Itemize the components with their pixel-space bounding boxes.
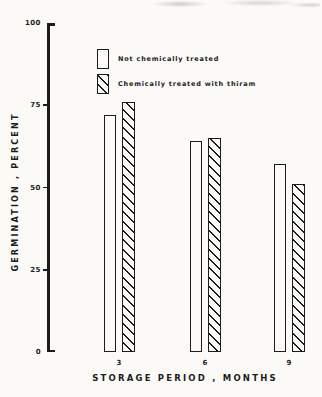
x-axis-title: STORAGE PERIOD , MONTHS <box>48 373 322 383</box>
y-tick-50 <box>43 187 48 189</box>
y-axis-bottom-serif <box>48 350 55 353</box>
figure: GERMINATION , PERCENT 0255075100 369 STO… <box>0 0 322 397</box>
bar-open-3months <box>104 115 116 352</box>
x-tick-label-3months: 3 <box>109 359 129 367</box>
y-axis-top-serif <box>48 23 55 26</box>
x-tick-label-6months: 6 <box>195 359 215 367</box>
bar-hatched-9months <box>292 184 305 352</box>
y-tick-label-50: 50 <box>19 184 41 192</box>
bar-open-6months <box>190 141 202 352</box>
legend-item-hatched: Chemically treated with thiram <box>97 74 256 94</box>
scan-smudge <box>150 0 320 12</box>
bar-hatched-3months <box>122 102 135 352</box>
bar-open-9months <box>274 164 286 352</box>
y-tick-label-75: 75 <box>19 101 41 109</box>
y-tick-25 <box>43 269 48 271</box>
legend-item-open: Not chemically treated <box>97 49 219 69</box>
legend-swatch-open-bar <box>97 49 109 69</box>
y-tick-label-25: 25 <box>19 266 41 274</box>
x-tick-label-9months: 9 <box>279 359 299 367</box>
legend-label-hatched: Chemically treated with thiram <box>118 80 256 88</box>
bar-hatched-6months <box>208 138 221 352</box>
y-tick-label-0: 0 <box>19 348 41 356</box>
y-tick-75 <box>43 104 48 106</box>
legend-label-open: Not chemically treated <box>118 55 219 63</box>
legend-swatch-hatched-bar <box>97 74 109 94</box>
y-tick-label-100: 100 <box>19 19 41 27</box>
